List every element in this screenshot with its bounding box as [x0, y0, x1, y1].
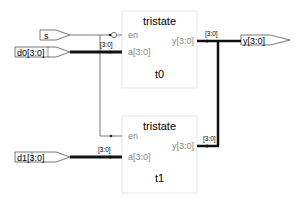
input-label-d1: d1[3:0]	[17, 153, 45, 163]
input-label-s: s	[44, 31, 49, 41]
bus-label-d0: [3:0]	[100, 41, 113, 49]
block-t1-instance: t1	[155, 172, 164, 184]
junction-dot	[109, 156, 112, 159]
t1-pin-y: y[3:0]	[172, 141, 194, 151]
junction-dot	[110, 135, 113, 138]
bus-label-t1-out: [3:0]	[203, 135, 216, 143]
junction-dot	[109, 34, 112, 37]
bus-label-t0-out: [3:0]	[205, 30, 218, 38]
t0-pin-a: a[3:0]	[128, 47, 151, 57]
schematic-canvas: [3:0] [3:0] [3:0] [3:0] s d0[3:0] d1[3:0…	[0, 0, 305, 200]
block-t1-module: tristate	[143, 120, 176, 132]
block-t0-module: tristate	[143, 15, 176, 27]
block-t0-instance: t0	[155, 68, 164, 80]
junction-dot	[206, 145, 209, 148]
bus-label-d1: [3:0]	[98, 146, 111, 154]
t0-pin-en: en	[128, 30, 138, 40]
junction-dot	[206, 40, 209, 43]
t1-pin-a: a[3:0]	[128, 152, 151, 162]
junction-dot	[109, 51, 112, 54]
t0-pin-y: y[3:0]	[172, 36, 194, 46]
t1-pin-en: en	[128, 131, 138, 141]
output-label-y: y[3:0]	[243, 36, 265, 46]
input-label-d0: d0[3:0]	[17, 48, 45, 58]
inverter-bubble-icon	[111, 32, 116, 37]
